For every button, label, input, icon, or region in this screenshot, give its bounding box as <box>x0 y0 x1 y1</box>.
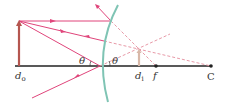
ray-reflected-vertex-arrow <box>74 74 80 78</box>
angle-arc-incident <box>90 61 91 66</box>
ray-diagram: θ θ do di f C <box>0 0 226 107</box>
center-point-dot <box>209 64 213 68</box>
ray-to-vertex <box>19 21 100 66</box>
label-focal-point: f <box>152 70 159 81</box>
label-theta-incident: θ <box>79 55 85 66</box>
convex-mirror <box>103 5 118 102</box>
virtual-ray-axis <box>100 34 170 66</box>
ray-toward-center-arrow <box>60 29 66 33</box>
ray-reflected-vertex <box>32 66 100 98</box>
label-theta-reflected: θ <box>112 55 118 66</box>
focal-point-dot <box>154 64 158 68</box>
ray-parallel-arrow <box>50 19 56 23</box>
label-center: C <box>207 71 215 82</box>
virtual-ray-middle <box>104 41 211 66</box>
label-object-distance: do <box>15 70 26 83</box>
label-image-distance: di <box>135 70 144 83</box>
